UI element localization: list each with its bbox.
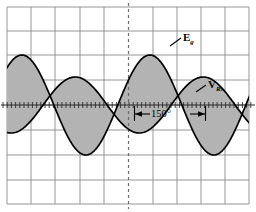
label-vrs-symbol: V [208,78,216,90]
waveform-svg [0,0,256,212]
label-eg: Eg [183,31,194,46]
label-phase-angle: 150° [151,108,171,119]
waveform-figure: Eg VRs 150° [0,0,256,212]
label-eg-subscript: g [190,38,194,46]
label-vrs-subscript2: s [221,86,223,92]
label-vrs: VRs [208,78,223,93]
